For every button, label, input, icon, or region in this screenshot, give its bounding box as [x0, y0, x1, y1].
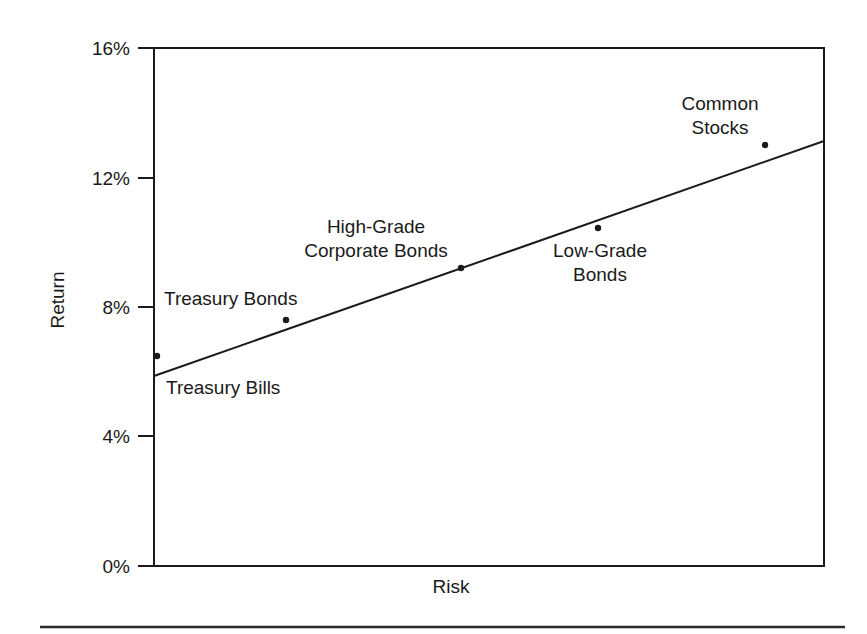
y-axis-tick-labels: 16% 12% 8% 4% 0%: [92, 38, 130, 577]
tick-16: 16%: [92, 38, 130, 59]
point-high-grade-corporate-bonds: [458, 265, 464, 271]
label-treasury-bonds: Treasury Bonds: [164, 288, 297, 309]
point-common-stocks: [762, 142, 768, 148]
point-treasury-bills: [154, 353, 160, 359]
label-high-grade-line1: High-Grade: [327, 216, 425, 237]
label-common-stocks-line2: Stocks: [691, 117, 748, 138]
label-common-stocks-line1: Common: [681, 93, 758, 114]
point-treasury-bonds: [283, 317, 289, 323]
y-axis-title: Return: [47, 271, 68, 328]
x-axis-title: Risk: [433, 576, 470, 597]
tick-4: 4%: [103, 426, 131, 447]
label-low-grade-line1: Low-Grade: [553, 240, 647, 261]
data-points: [154, 142, 768, 359]
point-low-grade-bonds: [595, 225, 601, 231]
tick-12: 12%: [92, 168, 130, 189]
y-axis-ticks: [138, 48, 154, 566]
label-treasury-bills: Treasury Bills: [166, 377, 280, 398]
tick-8: 8%: [103, 297, 131, 318]
label-high-grade-line2: Corporate Bonds: [304, 240, 448, 261]
security-market-line: [154, 141, 824, 376]
tick-0: 0%: [103, 556, 131, 577]
risk-return-chart: 16% 12% 8% 4% 0% Return Risk Treasury Bi…: [0, 0, 867, 634]
label-low-grade-line2: Bonds: [573, 264, 627, 285]
